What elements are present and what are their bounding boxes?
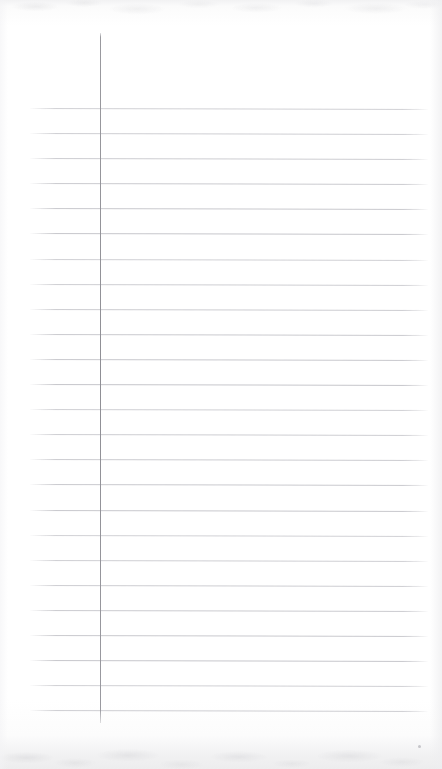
ruled-line — [30, 359, 428, 361]
ruled-line — [30, 309, 428, 311]
ruled-line — [30, 384, 428, 386]
scanned-page: Blank scanned sheet of lined notebook pa… — [0, 0, 442, 769]
ruled-line — [30, 660, 428, 662]
ruled-line — [30, 459, 428, 461]
vertical-margin-rule — [100, 33, 101, 723]
ruled-line — [30, 434, 428, 436]
ruled-line — [30, 108, 428, 110]
ruled-line — [30, 685, 428, 687]
ruled-line — [30, 510, 428, 512]
ruled-line — [30, 158, 428, 160]
ruled-line — [30, 133, 428, 135]
ruled-line — [30, 259, 428, 261]
ruled-line — [30, 635, 428, 637]
ruled-line — [30, 409, 428, 411]
ruled-lines-layer — [0, 0, 442, 769]
ruled-line — [30, 334, 428, 336]
ruled-line — [30, 535, 428, 537]
ruled-line — [30, 585, 428, 587]
ruled-line — [30, 610, 428, 612]
ruled-line — [30, 233, 428, 235]
ruled-line — [30, 208, 428, 210]
ruled-line — [30, 183, 428, 185]
ruled-line — [30, 484, 428, 486]
ruled-line — [30, 710, 428, 712]
ruled-line — [30, 284, 428, 286]
scan-speck-artifact — [418, 745, 421, 748]
ruled-line — [30, 560, 428, 562]
